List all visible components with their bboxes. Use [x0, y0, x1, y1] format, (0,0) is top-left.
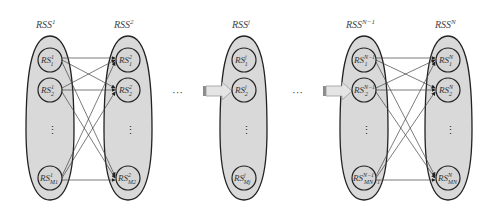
node-rs2-m2: RS2M2	[116, 166, 140, 190]
node-rsn-2: RSN2	[436, 78, 460, 102]
node-rsj-1: RSj1	[232, 48, 256, 72]
vertical-ellipsis-rss1: ⋮	[47, 124, 58, 136]
vertical-ellipsis-rssj: ⋮	[241, 124, 252, 136]
vertical-ellipsis-rss2: ⋮	[125, 124, 136, 136]
vertical-ellipsis-rssn1: ⋮	[361, 124, 372, 136]
rss-diagram: RSS1 RSS2 RSSj RSSN−1 RSSN RS11	[0, 0, 497, 216]
node-rs2-1: RS21	[116, 48, 140, 72]
node-rsj-2: RSj2	[232, 78, 256, 102]
set-label-rssj: RSSj	[231, 18, 250, 30]
node-rs1-m1: RS1M1	[38, 166, 62, 190]
node-rsn1-1: RSN−11	[352, 48, 376, 72]
node-rs1-2: RS12	[38, 78, 62, 102]
vertical-ellipsis-rssn: ⋮	[445, 124, 456, 136]
node-rsn-mn: RSNMN	[436, 166, 460, 190]
node-rs1-1: RS11	[38, 48, 62, 72]
node-rsn1-2: RSN−12	[352, 78, 376, 102]
node-rsn-1: RSN1	[436, 48, 460, 72]
set-label-rssn: RSSN	[434, 18, 456, 30]
set-label-rss2: RSS2	[113, 18, 134, 30]
node-rsj-mj: RSjMj	[232, 166, 256, 190]
set-label-rssn1: RSSN−1	[345, 18, 375, 30]
set-label-rss1: RSS1	[35, 18, 56, 30]
horizontal-ellipsis-1: ···	[172, 86, 183, 98]
horizontal-ellipsis-2: ···	[292, 86, 303, 98]
node-rs2-2: RS22	[116, 78, 140, 102]
